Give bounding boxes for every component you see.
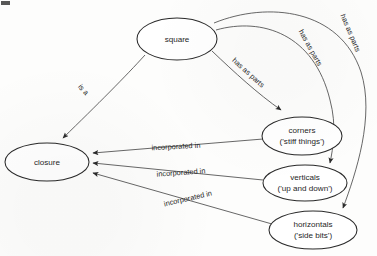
edge-square-closure [63,55,145,138]
node-corners-shape[interactable] [262,117,342,155]
node-horizontals-shape[interactable] [269,211,357,249]
node-verticals-sublabel: ('up and down') [278,184,333,193]
diagram-canvas: square closure corners ('stiff things') … [0,0,377,256]
node-horizontals-sublabel: ('side bits') [294,231,332,240]
edge-label-is-a: is a [76,82,91,97]
edge-square-corners [212,51,281,110]
node-square-label: square [165,35,190,44]
diagram-svg: square closure corners ('stiff things') … [0,0,377,256]
node-horizontals-label: horizontals [293,220,332,229]
edge-label-has-as-parts-verticals: has as parts [297,28,325,68]
node-verticals-shape[interactable] [263,165,347,201]
edge-label-incorporated-in-corners: incorporated in [151,141,200,153]
node-corners-sublabel: ('stiff things') [280,137,325,146]
node-closure[interactable]: closure [5,143,89,181]
node-layer: square closure corners ('stiff things') … [5,18,357,249]
node-corners[interactable]: corners ('stiff things') [262,117,342,155]
node-closure-label: closure [34,158,61,167]
edge-label-has-as-parts-horizontals: has as parts [338,12,362,53]
node-corners-label: corners [289,126,316,135]
node-verticals[interactable]: verticals ('up and down') [263,165,347,201]
node-horizontals[interactable]: horizontals ('side bits') [269,211,357,249]
node-verticals-label: verticals [290,173,320,182]
edge-label-incorporated-in-verticals: incorporated in [156,166,205,178]
node-square[interactable]: square [137,18,217,60]
